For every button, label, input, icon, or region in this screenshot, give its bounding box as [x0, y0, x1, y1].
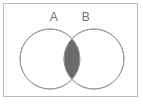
- set-label-b: B: [79, 11, 93, 23]
- venn-diagram-figure: A B: [0, 0, 143, 104]
- set-label-a: A: [47, 11, 61, 23]
- venn-diagram-graphic: [0, 0, 143, 104]
